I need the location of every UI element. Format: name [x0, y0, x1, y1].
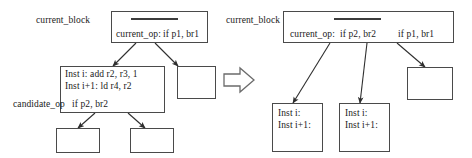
transform-block-arrow [224, 68, 254, 92]
left-candidate-op-label: candidate_op [13, 99, 65, 109]
right-dup-box-2-inst-2: Inst i+1: [345, 120, 378, 130]
left-body-inst-1: Inst i: add r2, r3, 1 [65, 69, 138, 79]
left-body-branch: if p2, br2 [72, 99, 108, 109]
left-empty-box-bottom-1[interactable] [56, 128, 100, 153]
left-empty-box-top-right[interactable] [177, 66, 216, 99]
right-header-branch-1: if p2, br2 [340, 29, 376, 39]
edge-right-header-to-empty [397, 43, 425, 67]
edge-right-header-to-dup-2 [360, 43, 367, 103]
edge-left-header-to-empty [155, 43, 178, 66]
right-header-elide-bar [334, 18, 381, 20]
right-dup-box-2-inst-1: Inst i: [345, 108, 368, 118]
left-header-branch: if p1, br1 [163, 29, 199, 39]
edge-left-body-to-empty-1 [78, 113, 95, 128]
left-current-block-label: current_block [36, 15, 90, 25]
edge-left-header-to-body [113, 43, 136, 66]
left-empty-box-bottom-2[interactable] [130, 128, 174, 153]
diagram-canvas: current_block current_op: if p1, br1 Ins… [0, 0, 472, 158]
edge-right-header-to-dup-1 [293, 43, 330, 103]
left-header-elide-bar [131, 18, 178, 20]
left-header-op-label: current_op: [116, 29, 161, 39]
right-dup-box-1-inst-2: Inst i+1: [278, 120, 311, 130]
right-header-branch-2: if p1, br1 [398, 29, 434, 39]
left-body-inst-2: Inst i+1: ld r4, r2 [65, 81, 132, 91]
right-current-block-label: current_block [226, 15, 280, 25]
right-dup-box-1-inst-1: Inst i: [278, 108, 301, 118]
right-empty-box[interactable] [407, 67, 453, 100]
edge-left-body-to-empty-2 [128, 113, 145, 128]
right-header-op-label: current_op: [290, 29, 335, 39]
